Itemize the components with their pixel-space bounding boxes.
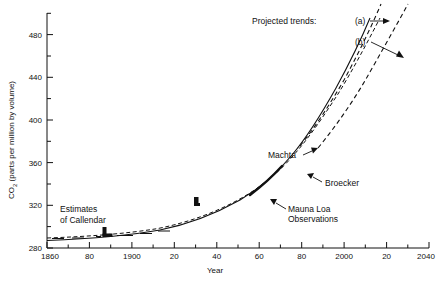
x-tick-label: 20: [170, 252, 179, 261]
y-axis-title-rest: (parts per million by volume): [7, 81, 16, 184]
x-tick-label: 2000: [335, 252, 353, 261]
x-tick-label: 1900: [123, 252, 141, 261]
annotation-callendar-line2: of Callendar: [60, 215, 106, 225]
x-axis-ticks: [47, 242, 429, 248]
x-tick-labels: 1860 80 1900 20 40 60 80 2000 20 2040: [41, 252, 435, 261]
annotation-broecker: Broecker: [325, 178, 359, 188]
svg-text:CO2 (parts per million by volu: CO2 (parts per million by volume): [7, 81, 18, 199]
annotation-machta: Machta: [268, 150, 296, 160]
x-tick-label: 20: [382, 252, 391, 261]
y-tick-label: 320: [29, 201, 43, 210]
x-tick-label: 80: [297, 252, 306, 261]
annotation-mauna-loa-line1: Mauna Loa: [288, 204, 331, 214]
leader-trend-b: [371, 42, 404, 58]
leader-broecker: [307, 173, 322, 182]
x-tick-label: 80: [85, 252, 94, 261]
y-tick-labels: 280 320 360 400 440 480: [29, 31, 43, 253]
y-tick-label: 440: [29, 73, 43, 82]
leader-mauna-loa: [270, 199, 286, 209]
y-tick-label: 400: [29, 116, 43, 125]
x-tick-label: 40: [212, 252, 221, 261]
y-tick-label: 360: [29, 159, 43, 168]
annotation-projected-trends: Projected trends:: [252, 16, 316, 26]
axes-group: [47, 13, 429, 248]
x-tick-label: 1860: [41, 252, 59, 261]
y-axis-title: CO2 (parts per million by volume): [7, 81, 18, 199]
x-tick-label: 60: [255, 252, 264, 261]
annotation-mauna-loa-line2: Observations: [288, 214, 338, 224]
annotation-trend-a: (a): [355, 16, 366, 26]
chart-svg: 280 320 360 400 440 480: [0, 0, 442, 283]
callendar-high-data-marker: [194, 197, 200, 206]
series-mauna-loa-line: [250, 166, 282, 195]
x-tick-label: 2040: [417, 252, 435, 261]
annotation-trend-b: (b): [355, 37, 366, 47]
leader-machta: [303, 148, 318, 156]
co2-projection-chart: 280 320 360 400 440 480: [0, 0, 442, 283]
callendar-data-marker: [103, 227, 113, 237]
y-tick-label: 480: [29, 31, 43, 40]
annotation-callendar-line1: Estimates: [60, 204, 97, 214]
x-axis-title: Year: [207, 266, 224, 275]
y-axis-ticks: [47, 13, 53, 248]
y-axis-title-main: CO: [7, 187, 16, 199]
